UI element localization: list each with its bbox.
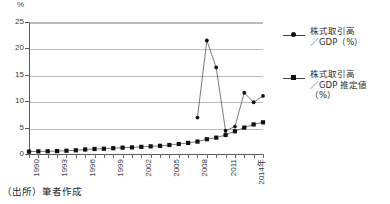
x-tick-label: 1996 xyxy=(89,159,97,177)
legend-label-actual-line1: 株式取引高 xyxy=(310,26,355,36)
y-tick-label: 5 xyxy=(0,124,24,132)
legend-sample-actual xyxy=(283,31,305,39)
x-axis-line xyxy=(29,154,263,155)
circle-marker-icon xyxy=(291,32,296,37)
square-marker-icon xyxy=(291,75,296,80)
y-tick-mark xyxy=(25,22,29,23)
legend-label-estimated: 株式取引高 ／GDP 推定値（%） xyxy=(310,69,388,101)
x-tick-mark xyxy=(29,154,30,158)
x-tick-label: 2008 xyxy=(201,159,209,177)
x-tick-mark xyxy=(188,154,189,158)
x-tick-mark xyxy=(254,154,255,158)
gridline xyxy=(30,76,263,77)
x-tick-mark xyxy=(48,154,49,158)
x-tick-mark xyxy=(151,154,152,158)
x-tick-mark xyxy=(95,154,96,158)
legend-label-actual: 株式取引高 ／GDP（%） xyxy=(310,26,388,47)
x-tick-mark xyxy=(123,154,124,158)
source-note: （出所）筆者作成 xyxy=(2,186,82,197)
legend-item-estimated[interactable]: 株式取引高 ／GDP 推定値（%） xyxy=(283,69,388,101)
x-tick-mark xyxy=(141,154,142,158)
y-tick-mark xyxy=(25,48,29,49)
x-tick-mark xyxy=(216,154,217,158)
x-tick-mark xyxy=(244,154,245,158)
y-tick-label: 25 xyxy=(0,18,24,26)
x-tick-mark xyxy=(179,154,180,158)
y-tick-mark xyxy=(25,75,29,76)
gridline xyxy=(30,129,263,130)
chart-figure: % 0510152025 199019931996199920022005200… xyxy=(0,0,390,204)
x-tick-mark xyxy=(169,154,170,158)
x-tick-mark xyxy=(197,154,198,158)
y-axis-unit-label: % xyxy=(17,1,24,9)
gridline xyxy=(30,102,263,103)
x-tick-mark xyxy=(76,154,77,158)
y-tick-mark xyxy=(25,128,29,129)
y-tick-mark xyxy=(25,101,29,102)
x-tick-mark xyxy=(113,154,114,158)
x-tick-label: 1993 xyxy=(61,159,69,177)
x-tick-label: 2011 xyxy=(230,159,238,176)
y-tick-label: 15 xyxy=(0,71,24,79)
y-tick-label: 0 xyxy=(0,150,24,158)
y-tick-label: 20 xyxy=(0,44,24,52)
x-tick-label: 1990 xyxy=(33,159,41,177)
x-tick-mark xyxy=(38,154,39,158)
x-tick-mark xyxy=(226,154,227,158)
x-tick-mark xyxy=(85,154,86,158)
x-tick-mark xyxy=(132,154,133,158)
gridline xyxy=(30,23,263,24)
x-tick-mark xyxy=(263,154,264,158)
x-tick-mark xyxy=(57,154,58,158)
x-tick-mark xyxy=(104,154,105,158)
x-tick-mark xyxy=(235,154,236,158)
x-tick-label: 1999 xyxy=(117,159,125,177)
x-tick-label: 2002 xyxy=(145,159,153,177)
y-tick-label: 10 xyxy=(0,97,24,105)
legend-label-estimated-line2: ／GDP 推定値（%） xyxy=(310,80,388,101)
x-tick-label: 2005 xyxy=(173,159,181,177)
legend-item-actual[interactable]: 株式取引高 ／GDP（%） xyxy=(283,26,388,47)
legend-label-estimated-line1: 株式取引高 xyxy=(310,69,355,79)
x-tick-mark xyxy=(207,154,208,158)
x-tick-label: 2014年 xyxy=(258,159,266,185)
x-tick-mark xyxy=(160,154,161,158)
gridline xyxy=(30,49,263,50)
x-tick-mark xyxy=(66,154,67,158)
legend-label-actual-line2: ／GDP（%） xyxy=(310,37,388,48)
legend-sample-estimated xyxy=(283,74,305,82)
chart-legend: 株式取引高 ／GDP（%） 株式取引高 ／GDP 推定値（%） xyxy=(283,26,388,123)
plot-area xyxy=(29,22,263,154)
